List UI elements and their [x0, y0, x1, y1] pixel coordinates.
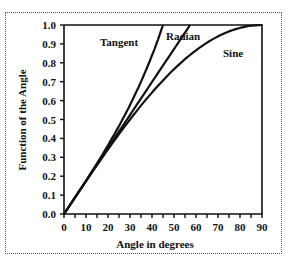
- y-tick-label: 0.8: [42, 57, 56, 69]
- x-tick-label: 40: [147, 221, 159, 233]
- radian-label: Radian: [166, 30, 200, 42]
- y-tick-label: 0.1: [42, 189, 56, 201]
- x-tick-label: 30: [125, 221, 137, 233]
- x-tick-label: 90: [257, 221, 269, 233]
- x-tick-label: 10: [81, 221, 93, 233]
- y-tick-label: 1.0: [42, 19, 56, 31]
- y-tick-label: 0.0: [42, 208, 56, 220]
- y-tick-label: 0.5: [42, 114, 56, 126]
- chart: 0.00.10.20.30.40.50.60.70.80.91.00102030…: [0, 0, 291, 267]
- y-tick-label: 0.9: [42, 38, 56, 50]
- x-tick-label: 70: [213, 221, 225, 233]
- y-tick-label: 0.3: [42, 151, 56, 163]
- x-axis-title: Angle in degrees: [116, 238, 194, 250]
- x-tick-label: 0: [61, 221, 67, 233]
- x-tick-label: 60: [191, 221, 203, 233]
- sine-label: Sine: [223, 47, 243, 59]
- x-tick-label: 50: [169, 221, 181, 233]
- y-tick-label: 0.4: [42, 132, 56, 144]
- y-tick-label: 0.2: [42, 170, 56, 182]
- y-tick-label: 0.7: [42, 76, 56, 88]
- tangent-label: Tangent: [100, 36, 138, 48]
- series-tangent-line: [64, 25, 163, 214]
- y-tick-label: 0.6: [42, 95, 56, 107]
- x-tick-label: 80: [235, 221, 247, 233]
- x-tick-label: 20: [103, 221, 115, 233]
- y-axis-title: Function of the Angle: [16, 69, 28, 170]
